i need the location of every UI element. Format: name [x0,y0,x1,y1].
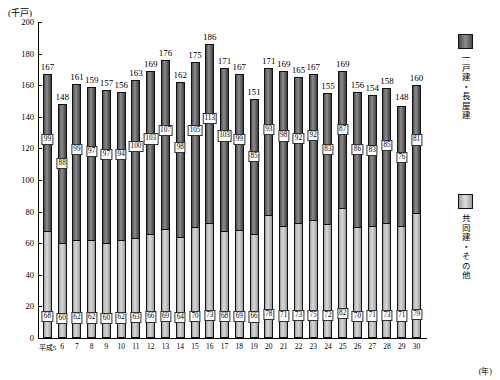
bar-segment-apartments-others[interactable]: 71 [368,226,377,338]
bar-segment-detached-row[interactable]: 85 [250,99,259,233]
bar-column[interactable]: 165927322 [291,22,306,338]
bar-segment-apartments-others[interactable]: 72 [323,224,332,338]
legend-item-apartments-and-others[interactable]: 共同建・その他 [436,194,494,281]
bar-column[interactable]: 154837127 [365,22,380,338]
bar-segment-apartments-others[interactable]: 66 [250,234,259,338]
stacked-bar[interactable]: 8372 [323,93,332,338]
bar-column[interactable]: 1691036612 [143,22,158,338]
bar-column[interactable]: 169878225 [335,22,350,338]
stacked-bar[interactable]: 9378 [264,68,273,338]
stacked-bar[interactable]: 9462 [117,92,126,338]
bar-column[interactable]: 155837224 [321,22,336,338]
bar-column[interactable]: 16199627 [70,22,85,338]
bar-segment-apartments-others[interactable]: 60 [58,243,67,338]
stacked-bar[interactable]: 10769 [161,60,170,338]
stacked-bar[interactable]: 8670 [353,92,362,338]
bar-column[interactable]: 171937820 [261,22,276,338]
bar-segment-detached-row[interactable]: 88 [58,104,67,243]
bar-segment-apartments-others[interactable]: 82 [338,208,347,338]
bar-segment-detached-row[interactable]: 92 [294,77,303,222]
bar-segment-detached-row[interactable]: 103 [146,71,155,234]
stacked-bar[interactable]: 8371 [368,95,377,338]
stacked-bar[interactable]: 10570 [191,62,200,339]
bar-column[interactable]: 156867026 [350,22,365,338]
bar-column[interactable]: 162986414 [173,22,188,338]
stacked-bar[interactable]: 8566 [250,99,259,338]
stacked-bar[interactable]: 9762 [87,87,96,338]
bar-segment-detached-row[interactable]: 99 [72,84,81,240]
bar-segment-detached-row[interactable]: 113 [205,44,214,223]
bar-segment-apartments-others[interactable]: 63 [131,238,140,338]
bar-segment-apartments-others[interactable]: 69 [161,229,170,338]
bar-segment-apartments-others[interactable]: 62 [72,240,81,338]
bar-segment-detached-row[interactable]: 85 [382,88,391,222]
bar-segment-apartments-others[interactable]: 66 [146,234,155,338]
bar-segment-apartments-others[interactable]: 62 [87,240,96,338]
bar-segment-apartments-others[interactable]: 75 [309,220,318,338]
stacked-bar[interactable]: 8782 [338,71,347,338]
bar-segment-detached-row[interactable]: 81 [412,85,421,213]
bar-column[interactable]: 1861137316 [202,22,217,338]
stacked-bar[interactable]: 9273 [294,77,303,338]
bar-segment-detached-row[interactable]: 100 [131,80,140,238]
stacked-bar[interactable]: 9864 [176,82,185,338]
stacked-bar[interactable]: 8179 [412,85,421,338]
bar-segment-detached-row[interactable]: 103 [220,68,229,231]
bar-segment-detached-row[interactable]: 76 [397,106,406,226]
bar-column[interactable]: 158857328 [380,22,395,338]
bar-segment-apartments-others[interactable]: 70 [353,227,362,338]
bar-column[interactable]: 156946210 [114,22,129,338]
bar-column[interactable]: 1751057015 [188,22,203,338]
bar-segment-detached-row[interactable]: 105 [191,62,200,228]
bar-segment-apartments-others[interactable]: 73 [294,223,303,338]
bar-segment-apartments-others[interactable]: 71 [279,226,288,338]
stacked-bar[interactable]: 11373 [205,44,214,338]
bar-segment-apartments-others[interactable]: 78 [264,215,273,338]
bar-segment-detached-row[interactable]: 99 [235,74,244,229]
bar-segment-apartments-others[interactable]: 64 [176,237,185,338]
bar-segment-detached-row[interactable]: 97 [87,87,96,240]
stacked-bar[interactable]: 9969 [235,74,244,338]
bar-segment-apartments-others[interactable]: 60 [102,243,111,338]
bar-segment-apartments-others[interactable]: 73 [382,223,391,338]
bar-column[interactable]: 167927523 [306,22,321,338]
stacked-bar[interactable]: 10063 [131,80,140,338]
bar-segment-apartments-others[interactable]: 62 [117,240,126,338]
bar-column[interactable]: 1711036817 [217,22,232,338]
bar-column[interactable]: 14888606 [55,22,70,338]
stacked-bar[interactable]: 9275 [309,74,318,338]
bar-segment-apartments-others[interactable]: 73 [205,223,214,338]
bar-segment-apartments-others[interactable]: 68 [43,231,52,338]
bar-column[interactable]: 148767129 [394,22,409,338]
stacked-bar[interactable]: 7671 [397,104,406,338]
bar-segment-apartments-others[interactable]: 68 [220,231,229,338]
bar-column[interactable]: 169987121 [276,22,291,338]
stacked-bar[interactable]: 8860 [58,104,67,338]
stacked-bar[interactable]: 8573 [382,88,391,338]
bar-segment-detached-row[interactable]: 107 [161,60,170,229]
bar-segment-apartments-others[interactable]: 79 [412,213,421,338]
bar-segment-detached-row[interactable]: 86 [353,92,362,228]
bar-segment-detached-row[interactable]: 83 [368,95,377,226]
bar-segment-detached-row[interactable]: 87 [338,71,347,208]
bar-segment-detached-row[interactable]: 83 [323,93,332,224]
bar-column[interactable]: 1631006311 [129,22,144,338]
stacked-bar[interactable]: 10366 [146,71,155,338]
bar-column[interactable]: 15997628 [84,22,99,338]
bar-segment-detached-row[interactable]: 93 [264,68,273,215]
bar-segment-apartments-others[interactable]: 71 [397,226,406,338]
bar-segment-apartments-others[interactable]: 69 [235,230,244,338]
bar-segment-detached-row[interactable]: 98 [279,71,288,226]
bar-segment-detached-row[interactable]: 97 [102,90,111,243]
stacked-bar[interactable]: 9962 [72,84,81,338]
stacked-bar[interactable]: 10368 [220,68,229,338]
legend-item-detached-and-row-houses[interactable]: 一戸建・長屋建 [436,34,494,121]
bar-segment-detached-row[interactable]: 98 [176,82,185,237]
bar-column[interactable]: 1761076913 [158,22,173,338]
bar-column[interactable]: 15797609 [99,22,114,338]
bar-segment-detached-row[interactable]: 99 [43,74,52,230]
bar-column[interactable]: 167996918 [232,22,247,338]
stacked-bar[interactable]: 9760 [102,90,111,338]
stacked-bar[interactable]: 9968 [43,74,52,338]
bar-segment-detached-row[interactable]: 92 [309,74,318,219]
